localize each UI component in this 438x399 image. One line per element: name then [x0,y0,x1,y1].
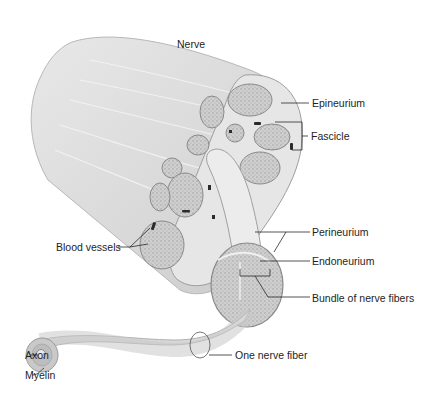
label-perineurium: Perineurium [312,226,369,238]
label-nerve: Nerve [177,38,205,50]
label-fascicle: Fascicle [311,130,350,142]
label-myelin: Myelin [25,369,55,381]
label-bundle-of-nerve-fibers: Bundle of nerve fibers [312,292,414,304]
label-endoneurium: Endoneurium [312,255,374,267]
nerve-illustration [0,0,438,399]
nerve-anatomy-diagram: Nerve Epineurium Fascicle Blood vessels … [0,0,438,399]
label-blood-vessels: Blood vessels [56,241,121,253]
label-axon: Axon [25,349,49,361]
label-one-nerve-fiber: One nerve fiber [235,349,307,361]
label-epineurium: Epineurium [312,97,365,109]
